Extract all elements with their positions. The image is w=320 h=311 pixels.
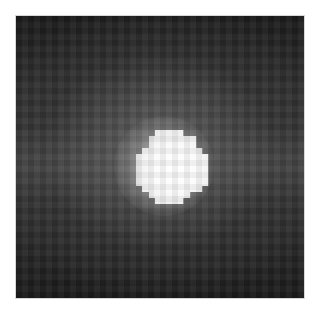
pixel-grid-texture (16, 16, 304, 298)
image-frame (16, 16, 304, 298)
